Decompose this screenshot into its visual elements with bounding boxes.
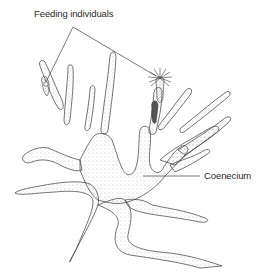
label-feeding-individuals: Feeding individuals (34, 8, 113, 19)
label-coenecium: Coenecium (204, 170, 251, 181)
zooid-tubes (39, 52, 230, 134)
colony-body (15, 117, 231, 268)
diagram-canvas: Feeding individuals Coenecium (0, 0, 257, 273)
colony-illustration (0, 0, 257, 273)
